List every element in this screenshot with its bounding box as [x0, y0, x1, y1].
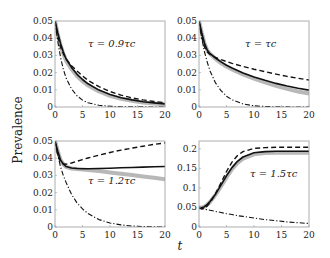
panel-annotation: τ = 1.5τc	[250, 168, 298, 179]
axes-frame	[199, 21, 309, 107]
figure: Prevalence t 0510152000.010.020.030.040.…	[0, 0, 330, 258]
y-tick-label: 0.03	[33, 170, 53, 180]
y-tick-label: 0.03	[33, 50, 53, 60]
x-tick-label: 0	[196, 230, 202, 240]
y-tick-label: 0.03	[177, 50, 197, 60]
x-axis-label: t	[178, 239, 183, 253]
x-tick-label: 0	[52, 230, 58, 240]
y-tick-label: 0.05	[177, 16, 197, 26]
x-tick-label: 0	[196, 110, 202, 120]
y-tick-label: 0.02	[177, 68, 197, 78]
x-tick-label: 20	[303, 230, 315, 240]
x-tick-label: 20	[303, 110, 315, 120]
y-tick-label: 0.04	[33, 33, 53, 43]
panel-annotation: τ = 0.9τc	[88, 38, 136, 49]
x-tick-label: 5	[80, 110, 86, 120]
panel-tl: 0510152000.010.020.030.040.05τ = 0.9τc	[33, 16, 171, 120]
x-tick-label: 5	[224, 110, 230, 120]
series-gray-thick	[199, 153, 309, 208]
y-tick-label: 0.01	[177, 85, 197, 95]
y-axis-label: Prevalence	[11, 96, 25, 163]
y-tick-label: 0.05	[177, 202, 197, 212]
x-tick-label: 15	[132, 230, 144, 240]
y-tick-label: 0.2	[183, 144, 197, 154]
y-tick-label: 0.15	[177, 163, 197, 173]
y-tick-label: 0	[47, 102, 53, 112]
series-gray-thick	[55, 141, 165, 179]
x-tick-label: 10	[104, 230, 116, 240]
series-dashed	[55, 141, 165, 164]
x-tick-label: 10	[104, 110, 116, 120]
panel-tr: 0510152000.010.020.030.040.05τ = τc	[177, 16, 315, 120]
series-dashed	[199, 21, 309, 80]
x-tick-label: 10	[248, 110, 260, 120]
x-tick-label: 5	[80, 230, 86, 240]
y-tick-label: 0	[47, 222, 53, 232]
y-tick-label: 0	[191, 222, 197, 232]
panel-bl: 0510152000.010.020.030.040.05τ = 1.2τc	[33, 136, 171, 240]
panel-br: 0510152000.050.10.150.2τ = 1.5τc	[177, 141, 315, 240]
y-tick-label: 0	[191, 102, 197, 112]
x-tick-label: 0	[52, 110, 58, 120]
y-tick-label: 0.05	[33, 136, 53, 146]
y-tick-label: 0.01	[33, 85, 53, 95]
series-dashdot	[199, 21, 309, 107]
y-tick-label: 0.02	[33, 68, 53, 78]
x-tick-label: 15	[276, 230, 288, 240]
series-solid	[199, 151, 309, 208]
y-tick-label: 0.05	[33, 16, 53, 26]
series-gray-thick	[55, 21, 165, 104]
y-tick-label: 0.1	[183, 183, 197, 193]
y-tick-label: 0.04	[177, 33, 197, 43]
series-dashdot	[199, 208, 309, 224]
x-tick-label: 15	[132, 110, 144, 120]
y-tick-label: 0.01	[33, 205, 53, 215]
x-tick-label: 10	[248, 230, 260, 240]
x-tick-label: 20	[159, 230, 171, 240]
series-dashed	[55, 21, 165, 103]
x-tick-label: 5	[224, 230, 230, 240]
series-solid	[55, 21, 165, 104]
x-tick-label: 20	[159, 110, 171, 120]
panel-annotation: τ = 1.2τc	[88, 175, 136, 186]
y-tick-label: 0.02	[33, 188, 53, 198]
panel-annotation: τ = τc	[245, 38, 277, 49]
x-tick-label: 15	[276, 110, 288, 120]
y-tick-label: 0.04	[33, 153, 53, 163]
